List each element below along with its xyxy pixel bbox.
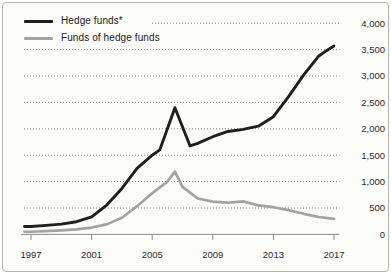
hedge-funds-line	[25, 46, 335, 227]
x-axis-label: 2017	[323, 249, 344, 260]
y-axis-label: 500	[369, 202, 385, 213]
y-axis-label: 0	[380, 229, 385, 240]
x-axis-label: 2009	[202, 249, 223, 260]
y-axis-label: 3,500	[361, 44, 385, 55]
y-axis-label: 1,500	[361, 150, 385, 161]
y-axis-label: 3,000	[361, 70, 385, 81]
legend-item-funds-of-hedge-funds: Funds of hedge funds	[24, 30, 160, 47]
x-axis-label: 1997	[20, 249, 41, 260]
y-axis-label: 4,000	[361, 18, 385, 29]
chart-figure: 05001,0001,5002,0002,5003,0003,5004,0001…	[0, 0, 391, 275]
hedge-funds-swatch	[24, 20, 53, 23]
x-axis-label: 2001	[81, 249, 102, 260]
y-axis-label: 2,000	[361, 123, 385, 134]
y-axis-label: 2,500	[361, 97, 385, 108]
hedge-funds-label: Hedge funds*	[61, 16, 123, 27]
y-axis-label: 1,000	[361, 176, 385, 187]
chart-legend: Hedge funds* Funds of hedge funds	[24, 13, 160, 47]
x-axis-label: 2005	[142, 249, 163, 260]
x-axis-label: 2013	[263, 249, 284, 260]
legend-item-hedge-funds: Hedge funds*	[24, 13, 160, 30]
funds-of-hedge-funds-label: Funds of hedge funds	[61, 33, 160, 44]
funds-of-hedge-funds-swatch	[24, 37, 53, 40]
